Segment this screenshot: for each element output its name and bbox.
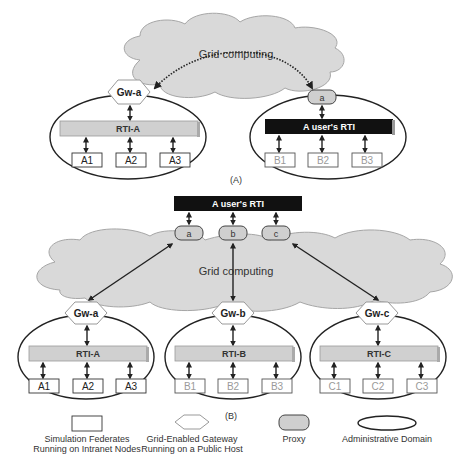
svg-text:A1: A1 (81, 155, 94, 166)
legend-domain-icon (358, 416, 416, 430)
architecture-diagram: Grid computing Gw-a RTI-A A1 A2 A3 a A u… (0, 0, 472, 473)
legend-gateway-icon (175, 415, 209, 429)
svg-text:A2: A2 (82, 381, 95, 392)
domain-b: Gw-b RTI-B B1 B2 B3 (165, 302, 301, 399)
svg-text:A2: A2 (125, 155, 138, 166)
svg-text:A3: A3 (169, 155, 182, 166)
svg-text:Gw-c: Gw-c (365, 308, 390, 319)
svg-text:C2: C2 (372, 381, 385, 392)
svg-text:B1: B1 (184, 381, 197, 392)
svg-text:Proxy: Proxy (282, 434, 306, 444)
svg-text:B2: B2 (317, 155, 330, 166)
svg-text:A1: A1 (38, 381, 51, 392)
svg-text:B3: B3 (361, 155, 374, 166)
caption-a: (A) (230, 175, 242, 185)
svg-text:C1: C1 (329, 381, 342, 392)
svg-text:B1: B1 (274, 155, 287, 166)
svg-text:Gw-a: Gw-a (74, 308, 99, 319)
svg-text:a: a (319, 93, 324, 103)
svg-text:Administrative Domain: Administrative Domain (342, 434, 432, 444)
svg-text:Running on Intranet Nodes: Running on Intranet Nodes (33, 444, 141, 454)
svg-text:c: c (274, 229, 279, 239)
svg-text:Gw-b: Gw-b (221, 308, 246, 319)
cloud-label: Grid computing (199, 265, 274, 277)
svg-text:A3: A3 (125, 381, 138, 392)
domain-c: Gw-c RTI-C C1 C2 C3 (310, 302, 446, 399)
rti-label: RTI-A (116, 124, 140, 134)
svg-text:A user's RTI: A user's RTI (212, 199, 264, 209)
domain-a: Gw-a RTI-A A1 A2 A3 (18, 302, 154, 399)
svg-text:Running on a Public Host: Running on a Public Host (141, 444, 243, 454)
gateway-label: Gw-a (117, 87, 142, 98)
svg-text:B3: B3 (271, 381, 284, 392)
svg-text:RTI-A: RTI-A (76, 349, 100, 359)
svg-text:C3: C3 (416, 381, 429, 392)
svg-text:A user's RTI: A user's RTI (303, 122, 355, 132)
svg-text:RTI-B: RTI-B (222, 349, 246, 359)
caption-b: (B) (225, 411, 237, 421)
svg-text:a: a (186, 229, 191, 239)
svg-text:Grid-Enabled Gateway: Grid-Enabled Gateway (146, 434, 238, 444)
svg-text:b: b (230, 229, 235, 239)
legend-federate-icon (72, 416, 102, 431)
svg-text:Simulation Federates: Simulation Federates (44, 434, 130, 444)
legend-proxy-icon (279, 415, 309, 430)
svg-text:RTI-C: RTI-C (367, 349, 391, 359)
svg-text:B2: B2 (227, 381, 240, 392)
